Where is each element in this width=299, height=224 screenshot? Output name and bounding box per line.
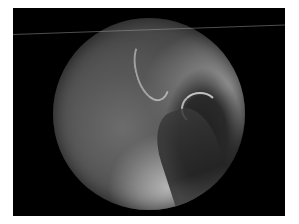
endoscopic-view xyxy=(53,18,245,210)
tissue-fold xyxy=(127,35,176,106)
image-frame xyxy=(13,8,285,216)
tissue-mass xyxy=(147,101,238,210)
